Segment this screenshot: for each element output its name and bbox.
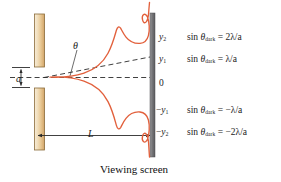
equation-y1-rhs: = λ/a (218, 54, 237, 64)
equation-y1-sin: sin (187, 54, 198, 64)
position-label-negative-y2: −y2 (156, 127, 169, 137)
distance-label: L (88, 128, 94, 139)
equation-y2-sin: sin (187, 32, 198, 42)
intensity-curve (50, 3, 150, 158)
barrier-upper (35, 14, 45, 67)
position-label-zero: 0 (159, 78, 164, 88)
equation-y2-dark-subscript: dark (205, 36, 215, 42)
position-label-y2-subscript: 2 (163, 36, 166, 42)
equation-y1-dark-subscript: dark (205, 58, 215, 64)
equation-negative-y2-dark-subscript: dark (205, 131, 215, 137)
position-label-y2: y2 (159, 32, 166, 42)
theta-leader-line (70, 50, 77, 76)
diagram-canvas (0, 0, 281, 182)
position-label-negative-y2-subscript: 2 (166, 131, 169, 137)
position-label-y1: y1 (159, 54, 166, 64)
equation-negative-y1-dark-subscript: dark (205, 109, 215, 115)
position-label-negative-y1: −y1 (156, 105, 169, 115)
equation-y2-rhs: = 2λ/a (218, 32, 242, 42)
figure-caption: Viewing screen (100, 163, 168, 175)
equation-y1: sin θdark = λ/a (187, 54, 237, 64)
equation-negative-y2-sin: sin (187, 127, 198, 137)
equation-negative-y2-rhs: = −2λ/a (218, 127, 247, 137)
equation-y2: sin θdark = 2λ/a (187, 32, 242, 42)
angle-theta-label: θ (73, 40, 78, 51)
viewing-screen-bar (150, 13, 155, 157)
position-label-negative-y1-subscript: 1 (166, 109, 169, 115)
single-slit-diffraction-figure: a L θ y2 y1 0 −y1 −y2 sin θdark = 2λ/a s… (0, 0, 281, 182)
equation-negative-y1: sin θdark = −λ/a (187, 105, 242, 115)
position-label-y1-subscript: 1 (163, 58, 166, 64)
equation-negative-y1-rhs: = −λ/a (218, 105, 243, 115)
slit-width-label: a (16, 73, 21, 84)
equation-negative-y1-sin: sin (187, 105, 198, 115)
diffraction-ray-dashed-line (44, 57, 150, 78)
equation-negative-y2: sin θdark = −2λ/a (187, 127, 247, 137)
barrier-lower (35, 88, 45, 150)
